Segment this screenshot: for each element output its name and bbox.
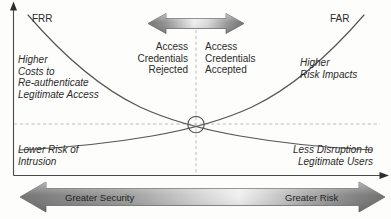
x-axis [14, 172, 390, 179]
figure-vector-layer [0, 0, 391, 219]
frr-curve-label: FRR [32, 13, 53, 25]
upper-right-annotation: Higher Risk Impacts [300, 57, 357, 80]
greater-security-label: Greater Security [65, 192, 134, 204]
credentials-rejected-label: Access Credentials Rejected [96, 41, 188, 76]
greater-risk-label: Greater Risk [285, 192, 338, 204]
far-frr-crossover-figure: FRR FAR Higher Costs to Re-authenticate … [0, 0, 391, 219]
far-curve-label: FAR [330, 13, 349, 25]
lower-left-annotation: Lower Risk of Intrusion [18, 144, 79, 167]
upper-left-annotation: Higher Costs to Re-authenticate Legitima… [18, 54, 99, 100]
y-axis [10, 2, 17, 176]
lower-right-annotation: Less Disruption to Legitimate Users [223, 144, 373, 167]
credentials-accepted-label: Access Credentials Accepted [205, 41, 297, 76]
